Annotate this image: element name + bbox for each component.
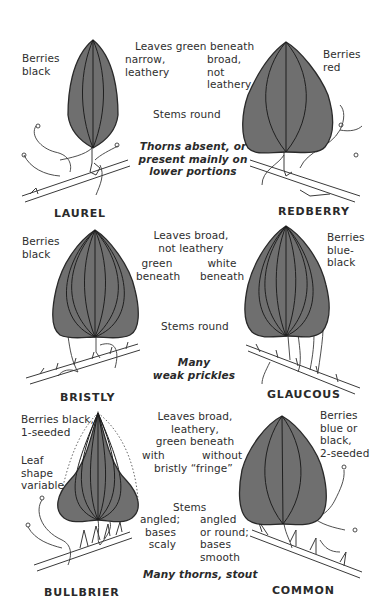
- redberry-leaf: [243, 42, 333, 153]
- thorns-absent-note: Thorns absent, or present mainly on lowe…: [138, 140, 248, 178]
- species-name-bullbrier: BULLBRIER: [44, 586, 119, 599]
- glaucous-leaf: [245, 226, 329, 337]
- bristly-fringe-label: bristly “fringe”: [154, 462, 233, 475]
- many-thorns-note: Many thorns, stout: [143, 568, 258, 581]
- label-line: Berries: [327, 231, 365, 244]
- label-line: leathery: [207, 78, 251, 91]
- bullbrier-fringe-qualifier: with: [142, 449, 165, 462]
- label-line: variable: [21, 479, 64, 492]
- label-line: narrow,: [125, 53, 169, 66]
- common-fringe-qualifier: without: [202, 449, 242, 462]
- redberry-leaf-label: broad, not leathery: [207, 53, 251, 91]
- bristly-leaf: [53, 230, 139, 338]
- label-line: scaly: [140, 538, 176, 551]
- label-line: Leaves broad,: [152, 410, 238, 423]
- label-line: Berries: [22, 235, 60, 248]
- label-line: Leaf: [21, 454, 64, 467]
- label-line: Berries: [323, 48, 361, 61]
- label-line: lower portions: [138, 165, 248, 178]
- glaucous-berries-label: Berries blue- black: [327, 231, 365, 269]
- label-line: Berries black,: [21, 413, 94, 426]
- label-line: smooth: [200, 551, 249, 564]
- common-berries-label: Berries blue or black, 2-seeded: [320, 409, 369, 459]
- label-line: green: [136, 257, 178, 270]
- species-name-laurel: LAUREL: [54, 207, 106, 220]
- label-line: not leathery: [148, 242, 234, 255]
- label-line: broad,: [207, 53, 251, 66]
- label-line: white: [200, 257, 244, 270]
- label-line: weak prickles: [147, 369, 241, 382]
- label-line: bases: [140, 526, 176, 539]
- laurel-berries-label: Berries black: [22, 52, 60, 77]
- label-line: 2-seeded: [320, 447, 369, 460]
- leaves-green-beneath-heading: Leaves green beneath: [135, 40, 254, 53]
- label-line: black,: [320, 434, 369, 447]
- label-line: angled: [200, 513, 249, 526]
- leaf-shape-variable-label: Leaf shape variable: [21, 454, 64, 492]
- label-line: 1-seeded: [21, 426, 94, 439]
- label-line: red: [323, 61, 361, 74]
- label-line: or round;: [200, 526, 249, 539]
- label-line: Leaves broad,: [148, 229, 234, 242]
- label-line: green beneath: [152, 435, 238, 448]
- label-line: black: [22, 65, 60, 78]
- stems-round-label: Stems round: [153, 108, 221, 121]
- leaves-broad-leathery-heading: Leaves broad, leathery, green beneath: [152, 410, 238, 448]
- bristly-beneath-label: green beneath: [136, 257, 178, 282]
- label-line: beneath: [200, 270, 244, 283]
- species-name-glaucous: GLAUCOUS: [267, 388, 341, 401]
- label-line: leathery,: [152, 423, 238, 436]
- stems-round-label-2: Stems round: [161, 320, 229, 333]
- label-line: Thorns absent, or: [138, 140, 248, 153]
- label-line: Many: [147, 356, 241, 369]
- label-line: Berries: [22, 52, 60, 65]
- label-line: black: [22, 248, 60, 261]
- species-name-bristly: BRISTLY: [60, 391, 115, 404]
- illustration-layer: [0, 0, 381, 610]
- species-name-common: COMMON: [272, 584, 335, 597]
- label-line: beneath: [136, 270, 178, 283]
- glaucous-beneath-label: white beneath: [200, 257, 244, 282]
- label-line: leathery: [125, 66, 169, 79]
- label-line: shape: [21, 467, 64, 480]
- label-line: not: [207, 66, 251, 79]
- weak-prickles-note: Many weak prickles: [147, 356, 241, 381]
- laurel-leaf-label: narrow, leathery: [125, 53, 169, 78]
- common-stems-label: angled or round; bases smooth: [200, 513, 249, 563]
- bullbrier-berries-label: Berries black, 1-seeded: [21, 413, 94, 438]
- label-line: blue-: [327, 244, 365, 257]
- stems-label: Stems: [173, 501, 206, 514]
- bullbrier-stems-label: angled; bases scaly: [140, 513, 176, 551]
- label-line: blue or: [320, 422, 369, 435]
- label-line: angled;: [140, 513, 176, 526]
- label-line: bases: [200, 538, 249, 551]
- label-line: present mainly on: [138, 153, 248, 166]
- label-line: black: [327, 256, 365, 269]
- leaves-broad-heading: Leaves broad, not leathery: [148, 229, 234, 254]
- species-name-redberry: REDBERRY: [278, 205, 350, 218]
- label-line: Berries: [320, 409, 369, 422]
- redberry-berries-label: Berries red: [323, 48, 361, 73]
- bristly-berries-label: Berries black: [22, 235, 60, 260]
